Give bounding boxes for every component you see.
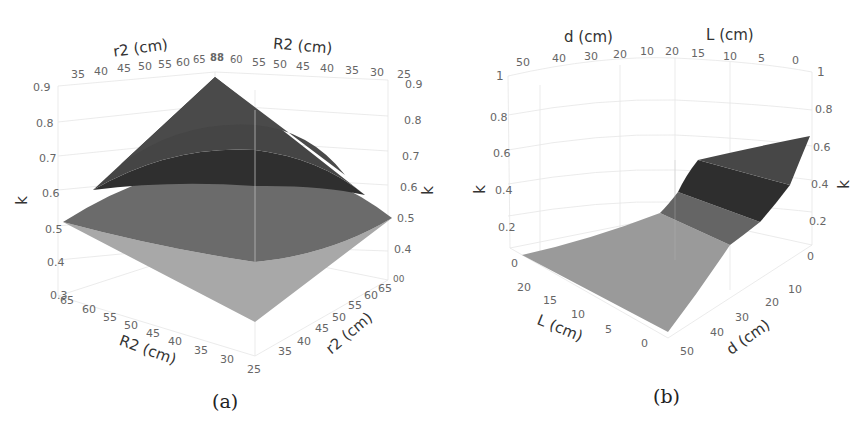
tick: 50 <box>124 320 138 331</box>
tick: 5 <box>758 53 765 64</box>
tick: 50 <box>680 346 694 357</box>
tick: 30 <box>735 312 749 323</box>
z-tick: 0.7 <box>402 151 420 162</box>
tick: 45 <box>146 328 160 339</box>
tick: 45 <box>296 61 310 72</box>
caption-a: (a) <box>212 392 238 411</box>
tick: 50 <box>516 57 530 68</box>
z-tick: 0.2 <box>809 216 827 227</box>
axis-label-top-d: d (cm) <box>564 30 613 45</box>
tick: 40 <box>320 63 334 74</box>
tick: 35 <box>278 346 292 357</box>
caption-b: (b) <box>653 387 680 406</box>
z-tick: 0.8 <box>490 112 508 123</box>
z-tick: 0.4 <box>394 244 412 255</box>
z-tick: 0.7 <box>39 153 57 164</box>
z-tick: 0.8 <box>36 118 54 129</box>
z-tick: 1 <box>496 70 504 82</box>
z-tick: 0.5 <box>397 213 415 224</box>
tick: 30 <box>220 354 234 365</box>
tick: 15 <box>543 295 557 306</box>
tick: 55 <box>158 59 172 70</box>
tick: 35 <box>194 345 208 356</box>
tick: 60 <box>364 290 378 301</box>
tick: 40 <box>297 336 311 347</box>
tick: 15 <box>691 48 705 59</box>
z-axis-label-right: k <box>421 186 436 195</box>
tick-overlap: 88 <box>210 53 224 63</box>
tick: 55 <box>348 300 362 311</box>
tick: 40 <box>552 53 566 64</box>
z-tick: 0.9 <box>33 82 51 93</box>
z-tick: 0.4 <box>495 185 513 196</box>
z-tick: 0.8 <box>815 104 833 115</box>
z-axis-label-left: k <box>473 185 488 194</box>
tick: 65 <box>60 295 74 306</box>
tick: 25 <box>247 364 261 375</box>
tick: 45 <box>315 323 329 334</box>
tick: 40 <box>94 66 108 77</box>
tick: 40 <box>168 336 182 347</box>
tick: 30 <box>584 51 598 62</box>
tick: 10 <box>640 46 654 57</box>
z-tick: 0.6 <box>400 182 418 193</box>
tick: 50 <box>138 61 152 72</box>
tick: 0 <box>792 55 799 66</box>
z-axis-label-left: k <box>15 196 30 205</box>
z-tick: 0.2 <box>498 222 516 233</box>
panel-a: r2 (cm) R2 (cm) 35 40 45 50 55 60 65 88 … <box>0 0 440 426</box>
z-tick: 0.4 <box>47 257 65 268</box>
tick: 65 <box>193 55 206 65</box>
z-tick: 0.4 <box>811 179 829 190</box>
tick: 10 <box>723 51 737 62</box>
surface-plot-b <box>440 0 868 426</box>
z-tick: 1 <box>817 66 825 78</box>
z-tick: 0 <box>511 258 518 269</box>
tick: 55 <box>103 312 117 323</box>
z-tick: 0.6 <box>493 148 511 159</box>
z-tick: 0.9 <box>405 79 423 90</box>
tick: 60 <box>82 304 96 315</box>
z-tick: 0.6 <box>42 188 60 199</box>
z-axis-label-right: k <box>837 180 852 189</box>
tick: 35 <box>345 65 359 76</box>
tick: 50 <box>273 59 287 70</box>
tick: 60 <box>176 57 190 68</box>
tick: 35 <box>71 69 85 80</box>
tick: 50 <box>332 312 346 323</box>
tick: 65 <box>378 283 392 294</box>
tick: 20 <box>765 297 779 308</box>
tick: 0 <box>641 338 648 349</box>
tick: 10 <box>788 284 802 295</box>
tick: 20 <box>613 49 627 60</box>
tick: 55 <box>252 57 266 68</box>
tick: 45 <box>117 63 131 74</box>
tick: 40 <box>710 327 724 338</box>
z-tick: 0 <box>807 251 814 262</box>
z-tick: 0.8 <box>404 115 422 126</box>
tick: 60 <box>230 55 243 65</box>
tick: 5 <box>605 324 612 335</box>
z-tick: 0.5 <box>45 224 63 235</box>
tick: 30 <box>370 67 384 78</box>
tick: 20 <box>665 46 679 57</box>
z-tick: 0.6 <box>813 142 831 153</box>
axis-label-top-L: L (cm) <box>706 28 754 43</box>
tick: 10 <box>571 309 585 320</box>
tick: 20 <box>517 282 531 293</box>
panel-b: d (cm) L (cm) 50 40 30 20 10 20 15 10 5 … <box>440 0 868 426</box>
tick-overlap: 00 <box>393 275 404 284</box>
